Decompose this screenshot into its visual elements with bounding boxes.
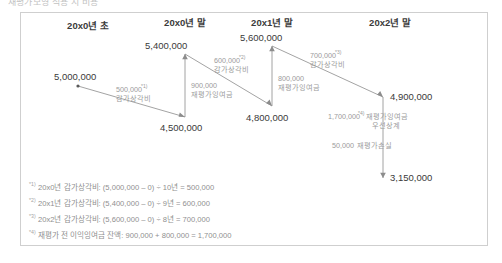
- note-text-1: 20x0년 감가상각비: (5,000,000 – 0) ÷ 10년 = 500…: [38, 182, 214, 192]
- flow-surplus-offset-label: 재평가잉여금: [366, 112, 408, 121]
- amount-end-x0-high: 5,400,000: [145, 40, 187, 51]
- note-text-4: 재평가 전 이익잉여금 잔액: 900,000 + 800,000 = 1,70…: [38, 230, 232, 240]
- flow-revaluation-x1-value: 800,000: [278, 74, 304, 83]
- column-heading-x1-end: 20x1년 말: [251, 17, 293, 28]
- flow-depreciation-x2-sup: *3): [335, 49, 342, 55]
- note-marker-3: *3): [29, 213, 36, 219]
- column-heading-x0-start: 20x0년 초: [67, 20, 109, 31]
- node-dot-start: [76, 84, 79, 87]
- flow-depreciation-x0-sup: *1): [141, 83, 148, 89]
- note-marker-4: *4): [29, 229, 36, 235]
- note-marker-1: *1): [29, 181, 36, 187]
- depreciation-x1-arrowhead: [266, 100, 272, 106]
- figure-root: 재평가모형 적용 시 비용 20x0년 초 20x0년 말 20x1년 말 20…: [0, 0, 502, 263]
- column-heading-x2-end: 20x2년 말: [369, 17, 411, 28]
- flow-surplus-offset-value: 1,700,000: [328, 112, 360, 121]
- note-marker-2: *2): [29, 197, 36, 203]
- flow-depreciation-x1-label: 감가상각비: [214, 65, 249, 74]
- amount-end-x2-high: 4,900,000: [390, 91, 432, 102]
- flow-depreciation-x2-label: 감가상각비: [310, 60, 345, 69]
- flow-revaluation-x0-label: 재평가잉여금: [191, 90, 233, 99]
- amount-end-x0-low: 4,500,000: [160, 122, 202, 133]
- flow-surplus-offset-label2: 우선상계: [372, 121, 400, 130]
- flow-revaluation-x0-value: 900,000: [191, 81, 217, 90]
- depreciation-x0-arrowhead: [179, 113, 185, 117]
- amount-end-x1-high: 5,600,000: [240, 32, 282, 43]
- column-heading-x0-end: 20x0년 말: [164, 17, 206, 28]
- note-text-3: 20x2년 감가상각비: (5,600,000 – 0) ÷ 8년 = 700,…: [38, 214, 210, 224]
- amount-start-x0: 5,000,000: [54, 71, 96, 82]
- flow-depreciation-x0-value: 500,000: [116, 85, 142, 94]
- amount-end-x1-low: 4,800,000: [246, 112, 288, 123]
- flow-revaluation-x1-label: 재평가잉여금: [278, 83, 320, 92]
- flow-revaluation-loss-value: 50,000: [332, 141, 354, 150]
- flow-depreciation-x0-label: 감가상각비: [116, 94, 151, 103]
- depreciation-x2-arrowhead: [377, 91, 383, 97]
- note-text-2: 20x1년 감가상각비: (5,400,000 – 0) ÷ 9년 = 600,…: [38, 198, 210, 208]
- revaluation-decrease-arrowhead: [380, 173, 386, 178]
- timeline-diagram: 20x0년 초 20x0년 말 20x1년 말 20x2년 말 5,000,00…: [0, 0, 502, 263]
- flow-depreciation-x1-sup: *2): [239, 54, 246, 60]
- flow-depreciation-x2-value: 700,000: [310, 51, 336, 60]
- amount-end-x2-low: 3,150,000: [390, 172, 432, 183]
- flow-surplus-offset-sup: *4): [358, 110, 365, 116]
- flow-depreciation-x1-value: 600,000: [214, 56, 240, 65]
- flow-revaluation-loss-label: 재평가손실: [357, 141, 392, 150]
